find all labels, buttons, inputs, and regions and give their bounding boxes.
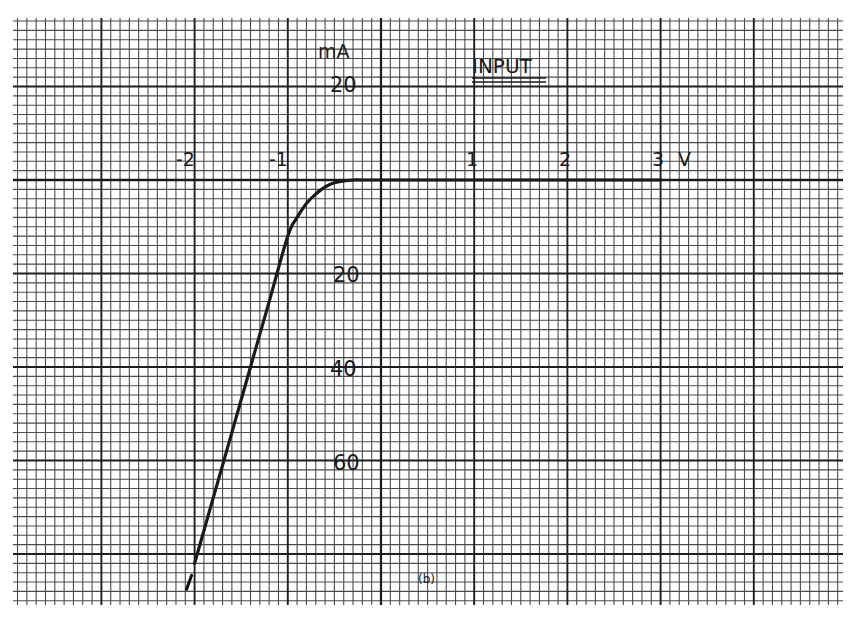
x-tick-neg2: -2	[176, 148, 195, 170]
y-tick-neg-40: 40	[330, 357, 357, 381]
chart-plot: mA 20 INPUT -2 -1 1 2 3 V 20 40 60 (b)	[0, 0, 862, 623]
x-tick-2: 2	[559, 148, 571, 170]
y-tick-neg-20: 20	[333, 263, 360, 287]
figure-caption: (b)	[418, 572, 435, 586]
x-tick-1: 1	[466, 148, 478, 170]
chart-title: INPUT	[472, 54, 533, 78]
x-unit-label: V	[678, 148, 691, 170]
x-tick-neg1: -1	[269, 148, 288, 170]
x-tick-3: 3	[652, 148, 664, 170]
grid-minor-lines	[13, 18, 843, 605]
y-tick-neg-60: 60	[333, 451, 360, 475]
y-unit-label: mA	[318, 40, 350, 62]
y-tick-pos-20: 20	[330, 73, 357, 97]
